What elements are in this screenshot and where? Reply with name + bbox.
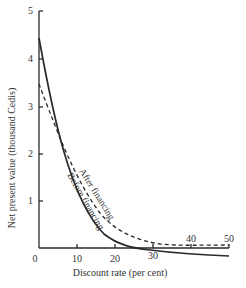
curve-before-financing <box>39 38 229 256</box>
x-tick-label-0: 0 <box>33 253 38 264</box>
y-tick-label-4: 4 <box>28 53 33 64</box>
axes <box>39 11 229 248</box>
x-tick-label-30: 30 <box>148 250 158 261</box>
x-tick-label-50: 50 <box>224 233 234 244</box>
x-tick-label-20: 20 <box>110 253 120 264</box>
y-tick-label-5: 5 <box>28 5 33 16</box>
x-tick-label-40: 40 <box>186 233 196 244</box>
y-tick-label-1: 1 <box>28 195 33 206</box>
x-tick-label-10: 10 <box>72 253 82 264</box>
npv-chart: 5 4 3 2 1 0 10 20 30 40 50 Discount rate… <box>0 0 246 288</box>
y-tick-label-3: 3 <box>28 101 33 112</box>
x-axis-title: Discount rate (per cent) <box>73 267 168 279</box>
y-axis-title: Net present value (thousand Cedis) <box>6 88 18 229</box>
y-tick-label-2: 2 <box>28 148 33 159</box>
